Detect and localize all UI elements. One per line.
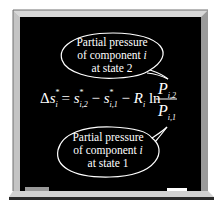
- bubble-top-line3: at state 2: [62, 62, 162, 75]
- frame-top: [13, 10, 208, 17]
- bubble-bottom-text: Partial pressure of component i at state…: [58, 131, 158, 170]
- bubble-top-line1: Partial pressure: [62, 36, 162, 49]
- frame-left: [13, 10, 20, 191]
- frame-right: [201, 10, 208, 191]
- bubble-bottom-line2: of component i: [58, 144, 158, 157]
- bubble-top-text: Partial pressure of component i at state…: [62, 36, 162, 75]
- entropy-equation: Δs*i = s*i,2 − s*i,1 − Ri ln: [40, 90, 161, 113]
- chalk-tray: [9, 191, 214, 197]
- fraction-numerator: Pi,2: [158, 80, 176, 104]
- chalk-stick: [167, 188, 187, 191]
- bubble-bottom-line1: Partial pressure: [58, 131, 158, 144]
- bubble-top-line2: of component i: [62, 49, 162, 62]
- eraser: [25, 187, 49, 191]
- fraction-denominator: Pi,1: [158, 102, 176, 126]
- bubble-bottom-line3: at state 1: [58, 157, 158, 170]
